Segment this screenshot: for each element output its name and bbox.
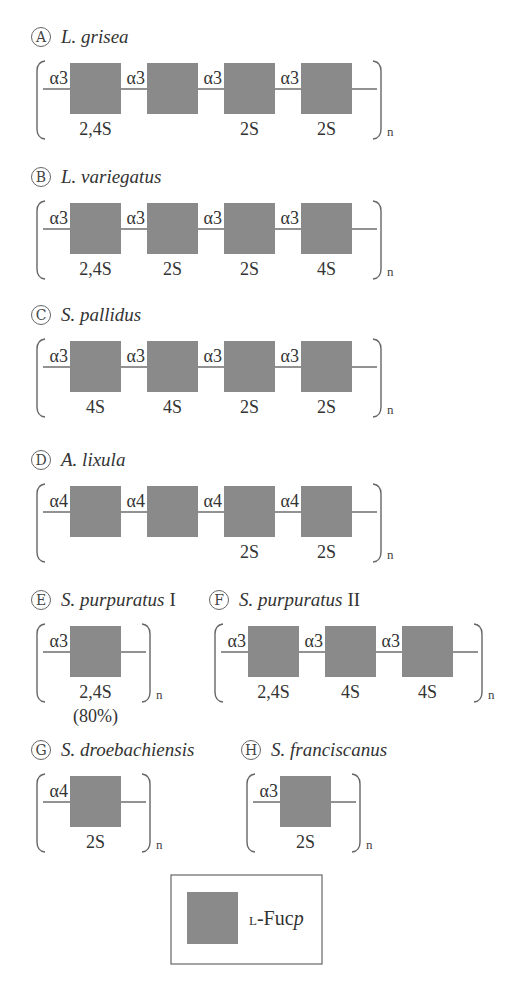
fucose-square-icon (301, 341, 352, 392)
sulfation-label: 2,4S (257, 682, 290, 702)
sulfation-label: 2S (240, 259, 259, 279)
left-bracket (37, 61, 45, 139)
linkage-label: α3 (50, 631, 68, 651)
fucose-unit: α34S (127, 341, 198, 417)
panel-letter: D (35, 452, 46, 468)
left-bracket (37, 774, 45, 852)
sulfation-label: 4S (418, 682, 437, 702)
repeat-subscript: n (156, 837, 163, 852)
linkage-label: α4 (50, 491, 68, 511)
fucose-square-icon (224, 203, 275, 254)
legend: L-Fucp (171, 875, 322, 964)
fucose-square-icon (402, 626, 453, 677)
sulfation-label: 2S (240, 119, 259, 139)
linkage-label: α3 (204, 346, 222, 366)
panel-d: DA. lixulanα4α4α42Sα42S (32, 449, 395, 562)
sulfation-label: 4S (341, 682, 360, 702)
linkage-label: α3 (127, 68, 145, 88)
fucose-unit: α34S (281, 203, 352, 279)
panel-letter: A (35, 29, 47, 45)
panels: AL. griseanα32,4Sα3α32Sα32SBL. variegatu… (32, 26, 496, 852)
sulfation-label: 2S (317, 397, 336, 417)
sulfation-label: 2S (86, 832, 105, 852)
panel-letter: C (36, 307, 47, 323)
right-bracket (474, 624, 482, 702)
sulfation-label: 2S (296, 832, 315, 852)
linkage-label: α3 (50, 208, 68, 228)
fucose-square-icon (147, 486, 198, 537)
linkage-label: α3 (260, 781, 278, 801)
linkage-label: α4 (281, 491, 299, 511)
linkage-label: α4 (50, 781, 68, 801)
linkage-label: α3 (204, 68, 222, 88)
fucose-square-icon (280, 776, 331, 827)
linkage-label: α3 (127, 346, 145, 366)
right-bracket (373, 339, 381, 417)
sulfation-label: 4S (86, 397, 105, 417)
panel-letter: B (36, 169, 46, 185)
fucose-square-icon (301, 486, 352, 537)
fucose-square-icon (224, 486, 275, 537)
right-bracket (142, 774, 150, 852)
fucose-square-icon (301, 203, 352, 254)
linkage-label: α3 (281, 68, 299, 88)
repeat-subscript: n (156, 687, 163, 702)
fucose-square-icon (248, 626, 299, 677)
panel-f: FS. purpuratusIInα32,4Sα34Sα34S (210, 589, 496, 702)
left-bracket (37, 484, 45, 562)
linkage-label: α3 (382, 631, 400, 651)
panel-a: AL. griseanα32,4Sα3α32Sα32S (32, 26, 395, 139)
fucose-unit: α32S (127, 203, 198, 279)
linkage-label: α3 (204, 208, 222, 228)
fucose-square-icon (187, 892, 238, 944)
repeat-subscript: n (488, 687, 495, 702)
panel-e: ES. purpuratusInα32,4S(80%) (32, 589, 176, 727)
sulfation-label: 4S (163, 397, 182, 417)
sulfation-label: 2S (240, 542, 259, 562)
panel-letter: H (245, 742, 257, 758)
fucose-square-icon (147, 63, 198, 114)
repeat-subscript: n (366, 837, 373, 852)
linkage-label: α3 (228, 631, 246, 651)
repeat-subscript: n (387, 402, 394, 417)
legend-label: L-Fucp (249, 907, 304, 930)
right-bracket (142, 624, 150, 702)
left-bracket (215, 624, 223, 702)
right-bracket (373, 484, 381, 562)
left-bracket (247, 774, 255, 852)
sulfation-label: 2S (163, 259, 182, 279)
linkage-label: α3 (50, 346, 68, 366)
sulfation-label: 2,4S (79, 682, 112, 702)
panel-letter: E (36, 592, 46, 608)
sulfation-label: 2,4S (79, 259, 112, 279)
sulfated-fucan-diagram: AL. griseanα32,4Sα3α32Sα32SBL. variegatu… (0, 0, 523, 1000)
right-bracket (352, 774, 360, 852)
species-name: S. purpuratusI (61, 589, 176, 610)
fucose-square-icon (147, 341, 198, 392)
sulfation-label: 2S (317, 542, 336, 562)
fucose-square-icon (325, 626, 376, 677)
species-name: L. grisea (60, 26, 129, 47)
fucose-unit: α42S (204, 486, 275, 562)
fucose-square-icon (70, 203, 121, 254)
panel-b: BL. variegatusnα32,4Sα32Sα32Sα34S (32, 166, 395, 279)
right-bracket (373, 61, 381, 139)
fucose-unit: α32S (204, 341, 275, 417)
fucose-square-icon (70, 341, 121, 392)
repeat-subscript: n (387, 547, 394, 562)
species-name: S. droebachiensis (61, 739, 194, 760)
linkage-label: α3 (281, 346, 299, 366)
linkage-label: α4 (204, 491, 222, 511)
fucose-square-icon (224, 341, 275, 392)
fucose-unit: α32,4S (50, 203, 121, 279)
fucose-unit: α32S (281, 63, 352, 139)
left-bracket (37, 339, 45, 417)
fucose-unit: α32,4S (50, 626, 121, 702)
fucose-unit: α32,4S (228, 626, 299, 702)
linkage-label: α4 (127, 491, 145, 511)
species-name: S. purpuratusII (239, 589, 360, 610)
sulfation-label: 2S (317, 119, 336, 139)
fucose-unit: α32S (281, 341, 352, 417)
fucose-unit: α32S (204, 203, 275, 279)
fucose-square-icon (301, 63, 352, 114)
